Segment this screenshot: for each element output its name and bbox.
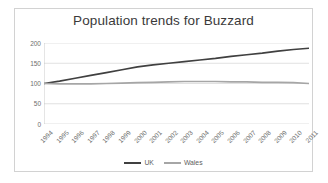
legend-item-uk[interactable]: UK (124, 159, 153, 166)
chart-container: Population trends for Buzzard 0501001502… (0, 0, 328, 183)
y-tick-label: 50 (15, 100, 41, 107)
legend-item-wales[interactable]: Wales (164, 159, 203, 166)
legend-label-wales: Wales (184, 159, 203, 166)
chart-title: Population trends for Buzzard (14, 13, 313, 28)
chart-legend: UK Wales (14, 159, 313, 166)
data-series-group (44, 48, 309, 84)
plot-area (44, 43, 309, 124)
y-tick-label: 150 (15, 60, 41, 67)
x-axis-labels: 1994199519961997199819992000200120022003… (44, 124, 309, 164)
series-canvas (44, 43, 309, 124)
legend-label-uk: UK (144, 159, 153, 166)
y-tick-label: 200 (15, 40, 41, 47)
series-line-uk (44, 48, 309, 83)
legend-swatch-wales-icon (164, 162, 181, 164)
legend-swatch-uk-icon (124, 162, 141, 164)
y-tick-label: 100 (15, 80, 41, 87)
y-tick-label: 0 (15, 121, 41, 128)
y-axis-labels: 050100150200 (14, 0, 41, 183)
